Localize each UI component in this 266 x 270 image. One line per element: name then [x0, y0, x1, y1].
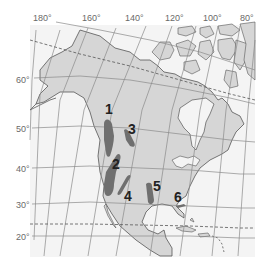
- lon-label-160: 160°: [82, 14, 101, 23]
- lon-label-100: 100°: [203, 14, 222, 23]
- lon-label-120: 120°: [165, 14, 184, 23]
- lat-label-20: 20°: [16, 233, 30, 242]
- lon-label-180: 180°: [33, 14, 52, 23]
- lon-label-140: 140°: [125, 14, 144, 23]
- lat-label-30: 30°: [16, 201, 30, 210]
- lat-label-50: 50°: [16, 125, 30, 134]
- region-label-6: 6: [174, 190, 182, 204]
- region-label-5: 5: [153, 179, 161, 193]
- lon-label-80: 80°: [240, 14, 254, 23]
- region-label-4: 4: [124, 189, 132, 203]
- region-label-2: 2: [112, 157, 120, 171]
- region-label-1: 1: [105, 102, 113, 116]
- lat-label-60: 60°: [16, 76, 30, 85]
- region-label-3: 3: [128, 122, 136, 136]
- lat-label-40: 40°: [16, 165, 30, 174]
